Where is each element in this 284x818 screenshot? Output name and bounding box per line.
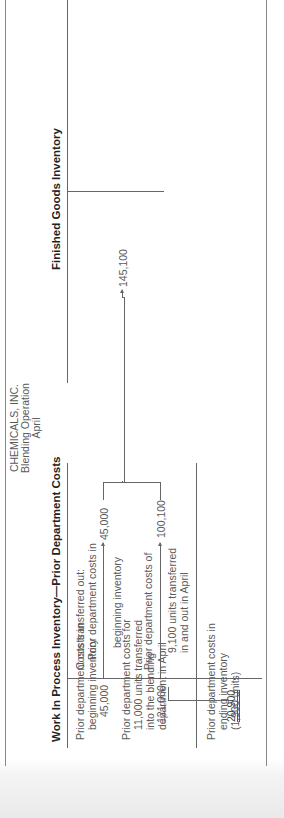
fg-debit-amount: 145,100 xyxy=(117,249,129,287)
wip-t-horizontal xyxy=(67,463,68,748)
ending-balance-connector xyxy=(168,700,230,701)
bracket-bottom xyxy=(160,482,161,500)
page-top-rule xyxy=(5,0,6,766)
wip-ending-amount: 20,900 xyxy=(225,690,240,722)
credit-1-leader-arrow xyxy=(103,543,104,678)
ending-balance-connector-top xyxy=(168,687,169,701)
wip-credit-1-label-a: Prior department costs in xyxy=(86,543,98,660)
credit-2-leader-arrow xyxy=(160,543,161,678)
fg-arrow xyxy=(122,290,123,298)
wip-account-title: Work In Process Inventory—Prior Departme… xyxy=(50,457,62,742)
wip-credit-2-label-b: 9,100 units transferred in and out in Ap… xyxy=(166,548,190,653)
period-label: April xyxy=(31,383,42,473)
rotated-document-page: CHEMICALS, INC. Blending Operation April… xyxy=(0,0,284,818)
wip-credit-1-amount: 45,000 xyxy=(98,508,110,540)
bracket-45000 xyxy=(103,482,161,483)
page-bottom-rule xyxy=(266,0,267,766)
wip-debit-2-amount: 121,000 xyxy=(155,685,167,723)
fg-t-vertical xyxy=(67,191,164,192)
company-header: CHEMICALS, INC. Blending Operation April xyxy=(9,383,42,473)
finished-goods-title: Finished Goods Inventory xyxy=(50,128,62,270)
bracket-top xyxy=(103,482,104,500)
wip-credit-2-amount: 100,100 xyxy=(155,500,167,538)
transfer-to-finished-goods-line xyxy=(124,297,125,482)
wip-credit-1-label-b: beginning inventory xyxy=(111,557,123,648)
wip-debit-1-amount: 45,000 xyxy=(98,685,110,717)
wip-credit-heading: Costs transferred out: xyxy=(74,569,86,670)
wip-ending-label: Prior department costs in ending invento… xyxy=(205,623,241,740)
wip-balance-rule xyxy=(196,463,197,748)
wip-credit-2-label-a: Prior department costs of xyxy=(142,553,154,670)
page-edge-shadow xyxy=(0,758,284,818)
